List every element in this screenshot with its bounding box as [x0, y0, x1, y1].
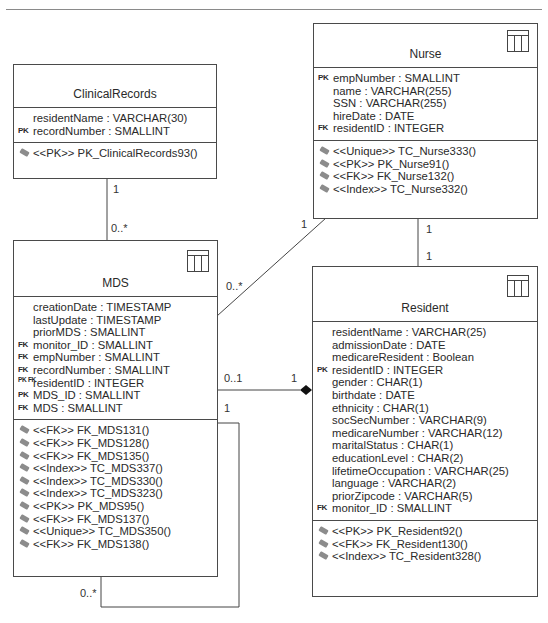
attribute-row: PKrecordNumber : SMALLINT: [14, 125, 216, 138]
multiplicity-label: 1: [301, 218, 307, 230]
attribute-row: residentName : VARCHAR(30): [14, 112, 216, 125]
attribute-row: maritalStatus : CHAR(1): [313, 439, 537, 452]
multiplicity-label: 0..1: [224, 372, 242, 384]
multiplicity-label: 0..*: [111, 222, 128, 234]
table-nurse[interactable]: Nurse PKempNumber : SMALLINT name : VARC…: [313, 23, 538, 219]
operation-icon: [19, 488, 29, 497]
operation-icon: [19, 514, 29, 523]
operation-row: <<Index>> TC_Nurse332(): [314, 183, 537, 196]
table-mds[interactable]: MDS creationDate : TIMESTAMP lastUpdate …: [13, 240, 218, 577]
table-resident[interactable]: Resident residentName : VARCHAR(25) admi…: [312, 266, 538, 597]
operation-row: <<PK>> PK_Resident92(): [313, 525, 537, 538]
operation-icon: [319, 146, 329, 155]
multiplicity-label: 1: [113, 183, 119, 195]
multiplicity-label: 1: [224, 402, 230, 414]
operation-row: <<Index>> TC_MDS323(): [14, 487, 217, 500]
operation-icon: [319, 184, 329, 193]
operation-row: <<Index>> TC_MDS337(): [14, 462, 217, 475]
attribute-row: PKMDS_ID : SMALLINT: [14, 389, 217, 402]
operation-row: <<PK>> PK_Nurse91(): [314, 158, 537, 171]
operation-list: <<Unique>> TC_Nurse333() <<PK>> PK_Nurse…: [314, 141, 537, 199]
attribute-row: FKrecordNumber : SMALLINT: [14, 364, 217, 377]
table-clinical-records[interactable]: ClinicalRecords residentName : VARCHAR(3…: [13, 64, 217, 179]
table-icon: [507, 275, 529, 297]
operation-list: <<PK>> PK_Resident92() <<FK>> FK_Residen…: [313, 521, 537, 567]
operation-row: <<PK>> PK_ClinicalRecords93(): [14, 147, 216, 160]
attribute-list: creationDate : TIMESTAMP lastUpdate : TI…: [14, 297, 217, 420]
attribute-row: admissionDate : DATE: [313, 339, 537, 352]
operation-icon: [318, 526, 328, 535]
operation-icon: [19, 526, 29, 535]
operation-icon: [19, 501, 29, 510]
attribute-list: residentName : VARCHAR(30) PKrecordNumbe…: [14, 108, 216, 143]
operation-icon: [19, 148, 29, 157]
attribute-row: SSN : VARCHAR(255): [314, 97, 537, 110]
attribute-row: FKmonitor_ID : SMALLINT: [14, 339, 217, 352]
attribute-row: ethnicity : CHAR(1): [313, 402, 537, 415]
table-title: Nurse: [314, 24, 537, 68]
attribute-row: hireDate : DATE: [314, 110, 537, 123]
attribute-row: birthdate : DATE: [313, 389, 537, 402]
operation-icon: [319, 159, 329, 168]
operation-list: <<PK>> PK_ClinicalRecords93(): [14, 143, 216, 164]
attribute-row: gender : CHAR(1): [313, 376, 537, 389]
attribute-row: lifetimeOccupation : VARCHAR(25): [313, 465, 537, 478]
attribute-row: name : VARCHAR(255): [314, 85, 537, 98]
multiplicity-label: 1: [426, 250, 432, 262]
operation-row: <<Unique>> TC_Nurse333(): [314, 145, 537, 158]
attribute-row: FKempNumber : SMALLINT: [14, 351, 217, 364]
operation-row: <<Unique>> TC_MDS350(): [14, 525, 217, 538]
operation-icon: [19, 425, 29, 434]
operation-list: <<FK>> FK_MDS131() <<FK>> FK_MDS128() <<…: [14, 420, 217, 554]
operation-row: <<FK>> FK_MDS135(): [14, 450, 217, 463]
attribute-row: lastUpdate : TIMESTAMP: [14, 314, 217, 327]
attribute-row: priorZipcode : VARCHAR(5): [313, 490, 537, 503]
operation-icon: [19, 539, 29, 548]
multiplicity-label: 1: [426, 223, 432, 235]
attribute-row: medicareResident : Boolean: [313, 351, 537, 364]
attribute-row: FKmonitor_ID : SMALLINT: [313, 502, 537, 515]
operation-row: <<FK>> FK_Nurse132(): [314, 170, 537, 183]
multiplicity-label: 0..*: [226, 280, 243, 292]
operation-row: <<Index>> TC_MDS330(): [14, 475, 217, 488]
attribute-row: educationLevel : CHAR(2): [313, 452, 537, 465]
operation-icon: [319, 171, 329, 180]
attribute-row: PK FKresidentID : INTEGER: [14, 377, 217, 390]
table-title: MDS: [14, 241, 217, 297]
operation-icon: [318, 539, 328, 548]
operation-icon: [19, 476, 29, 485]
attribute-row: creationDate : TIMESTAMP: [14, 301, 217, 314]
attribute-row: PKempNumber : SMALLINT: [314, 72, 537, 85]
operation-row: <<FK>> FK_Resident130(): [313, 538, 537, 551]
operation-row: <<PK>> PK_MDS95(): [14, 500, 217, 513]
operation-row: <<FK>> FK_MDS128(): [14, 437, 217, 450]
multiplicity-label: 1: [291, 372, 297, 384]
attribute-list: residentName : VARCHAR(25) admissionDate…: [313, 322, 537, 521]
attribute-row: FKMDS : SMALLINT: [14, 402, 217, 415]
operation-row: <<FK>> FK_MDS131(): [14, 424, 217, 437]
top-rule: [6, 9, 542, 10]
attribute-list: PKempNumber : SMALLINT name : VARCHAR(25…: [314, 68, 537, 141]
attribute-row: socSecNumber : VARCHAR(9): [313, 414, 537, 427]
table-icon: [187, 250, 209, 272]
attribute-row: priorMDS : SMALLINT: [14, 326, 217, 339]
operation-row: <<FK>> FK_MDS138(): [14, 538, 217, 551]
attribute-row: FKresidentID : INTEGER: [314, 122, 537, 135]
attribute-row: PKresidentID : INTEGER: [313, 364, 537, 377]
table-title: ClinicalRecords: [14, 65, 216, 108]
operation-row: <<FK>> FK_MDS137(): [14, 513, 217, 526]
attribute-row: medicareNumber : VARCHAR(12): [313, 427, 537, 440]
operation-icon: [19, 463, 29, 472]
operation-row: <<Index>> TC_Resident328(): [313, 550, 537, 563]
table-title: Resident: [313, 267, 537, 322]
operation-icon: [19, 438, 29, 447]
operation-icon: [19, 451, 29, 460]
multiplicity-label: 0..*: [80, 587, 97, 599]
operation-icon: [318, 551, 328, 560]
attribute-row: language : VARCHAR(2): [313, 477, 537, 490]
attribute-row: residentName : VARCHAR(25): [313, 326, 537, 339]
